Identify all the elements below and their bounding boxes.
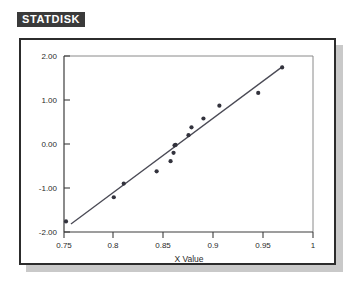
data-point [168,159,172,163]
chart-screenshot: STATDISK 2.00 1.00 0.00 -1.00 -2.00 [0,0,354,288]
data-point [189,125,193,129]
data-point [112,195,116,199]
x-axis-ticks [64,232,313,238]
data-point [171,151,175,155]
data-point [122,182,126,186]
y-tick-label: 0.00 [41,140,57,149]
data-point [186,133,190,137]
data-point [280,65,284,69]
statdisk-title-badge: STATDISK [17,12,85,27]
x-tick-label: 0.9 [207,241,219,250]
data-point [173,143,177,147]
y-axis-ticks [64,56,70,232]
x-tick-label: 0.8 [107,241,119,250]
x-tick-label: 1 [311,241,316,250]
y-axis-tick-labels: 2.00 1.00 0.00 -1.00 -2.00 [39,52,58,237]
data-point [256,91,260,95]
x-tick-label: 0.95 [255,241,271,250]
y-tick-label: 2.00 [41,52,57,61]
y-tick-label: 1.00 [41,96,57,105]
data-point [217,104,221,108]
data-point [155,169,159,173]
data-point [64,219,68,223]
y-tick-label: -2.00 [39,228,58,237]
x-tick-label: 0.85 [155,241,171,250]
data-point [201,116,205,120]
y-tick-label: -1.00 [39,184,58,193]
x-tick-label: 0.75 [56,241,72,250]
scatter-points [64,65,284,223]
normal-quantile-plot: 2.00 1.00 0.00 -1.00 -2.00 0.75 0.8 0.85… [19,38,336,265]
statdisk-title-label: STATDISK [22,14,80,25]
x-axis-tick-labels: 0.75 0.8 0.85 0.9 0.95 1 [56,241,316,250]
x-axis-title: X Value [174,254,203,264]
